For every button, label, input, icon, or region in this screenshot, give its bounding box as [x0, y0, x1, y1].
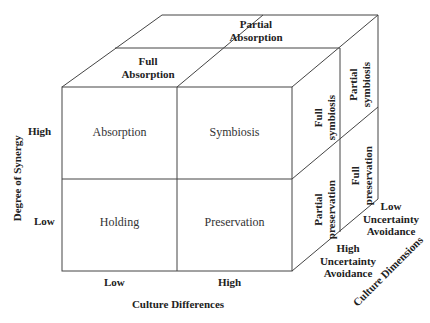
- right-partial-symbiosis: Partial symbiosis: [347, 55, 372, 115]
- label-line: Absorption: [206, 31, 306, 44]
- label-line: Low: [351, 200, 430, 213]
- label-line: Full: [312, 88, 325, 148]
- label-line: Uncertainty: [308, 255, 388, 268]
- cell-symbiosis: Symbiosis: [177, 126, 292, 140]
- label-line: symbiosis: [325, 88, 338, 148]
- top-back-label: Partial Absorption: [206, 18, 306, 43]
- x-tick-low: Low: [104, 276, 125, 289]
- cell-preservation: Preservation: [177, 216, 292, 230]
- right-partial-preservation: Partial preservation: [312, 170, 337, 250]
- cell-absorption: Absorption: [62, 126, 177, 140]
- y-tick-high: High: [28, 125, 51, 138]
- top-front-label: Full Absorption: [98, 55, 198, 80]
- label-line: Uncertainty: [351, 213, 430, 226]
- label-line: symbiosis: [360, 55, 373, 115]
- label-line: Partial: [312, 170, 325, 250]
- label-line: High: [308, 242, 388, 255]
- right-full-symbiosis: Full symbiosis: [312, 88, 337, 148]
- label-line: Absorption: [98, 68, 198, 81]
- cell-holding: Holding: [62, 216, 177, 230]
- label-line: preservation: [325, 170, 338, 250]
- label-line: Full: [98, 55, 198, 68]
- y-axis-title: Degree of Synergy: [11, 133, 24, 223]
- x-axis-title: Culture Differences: [128, 298, 228, 311]
- x-tick-high: High: [218, 276, 241, 289]
- label-line: Partial: [206, 18, 306, 31]
- label-line: Partial: [347, 55, 360, 115]
- y-tick-low: Low: [34, 215, 55, 228]
